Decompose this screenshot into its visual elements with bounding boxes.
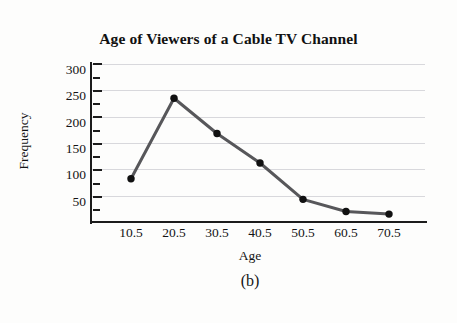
figure-caption: (b) <box>0 272 457 290</box>
x-axis-title: Age <box>0 248 457 264</box>
y-axis-title: Frequency <box>16 93 32 189</box>
figure-container: Age of Viewers of a Cable TV Channel 300… <box>0 0 457 323</box>
x-tick-label-7: 70.5 <box>363 226 415 240</box>
